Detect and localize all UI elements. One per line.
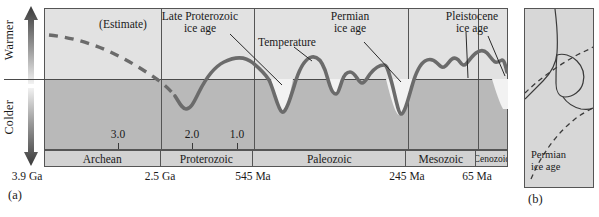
down-arrow-gradient-icon — [24, 88, 38, 166]
age-label-65-ma: 65 Ma — [462, 170, 492, 182]
era-cell-paleozoic: Paleozoic — [253, 151, 406, 166]
axis-label-colder: Colder — [2, 100, 20, 134]
scale-number-2: 2.0 — [185, 128, 199, 140]
era-cell-proterozoic: Proterozoic — [161, 151, 254, 166]
era-cell-mesozoic: Mesozoic — [406, 151, 476, 166]
temperature-curve — [175, 51, 507, 114]
up-arrow-gradient-icon — [24, 6, 38, 84]
annotation-permian-ice-age: Permian ice age — [318, 10, 382, 35]
ice-age-fills — [271, 79, 508, 115]
panel-a-label: (a) — [8, 188, 22, 203]
scale-number-3: 3.0 — [111, 128, 125, 140]
annotation-late-proterozoic-ice-age: Late Proterozoic ice age — [148, 10, 252, 35]
figure-root: Warmer Colder — [0, 0, 599, 217]
zero-baseline-extension — [4, 79, 44, 80]
scale-tick-2 — [192, 143, 193, 149]
age-label-2-5-ga: 2.5 Ga — [145, 170, 176, 182]
annotation-pleistocene-ice-age: Pleistocene ice age — [438, 10, 506, 35]
map-frame: Permian ice age — [524, 8, 594, 188]
estimate-curve — [49, 35, 175, 96]
age-label-545-ma: 545 Ma — [235, 170, 270, 182]
boundary-age-labels: 3.9 Ga 2.5 Ga 545 Ma 245 Ma 65 Ma — [0, 170, 515, 188]
panel-b-label: (b) — [528, 192, 543, 207]
era-band: Archean Proterozoic Paleozoic Mesozoic C… — [44, 150, 508, 167]
time-scale-ticks: 3.0 2.0 1.0 — [44, 128, 508, 150]
scale-tick-1 — [237, 143, 238, 149]
annotation-temperature: Temperature — [250, 36, 324, 48]
era-cell-cenozoic: Cenozoic — [476, 151, 507, 166]
age-label-245-ma: 245 Ma — [389, 170, 424, 182]
ice-fill-pleistocene — [492, 79, 508, 109]
era-cell-archean: Archean — [45, 151, 161, 166]
map-caption-permian-ice-age: Permian ice age — [531, 149, 566, 173]
leader-temperature — [294, 47, 312, 61]
axis-label-warmer: Warmer — [2, 20, 20, 60]
age-label-3-9-ga: 3.9 Ga — [12, 170, 43, 182]
panel-a-temperature-chart: Warmer Colder — [0, 0, 515, 217]
scale-number-1: 1.0 — [230, 128, 244, 140]
leader-pleistocene-left — [466, 32, 468, 78]
scale-tick-3 — [118, 143, 119, 149]
panel-b-permian-map: Permian ice age (b) — [524, 8, 594, 188]
